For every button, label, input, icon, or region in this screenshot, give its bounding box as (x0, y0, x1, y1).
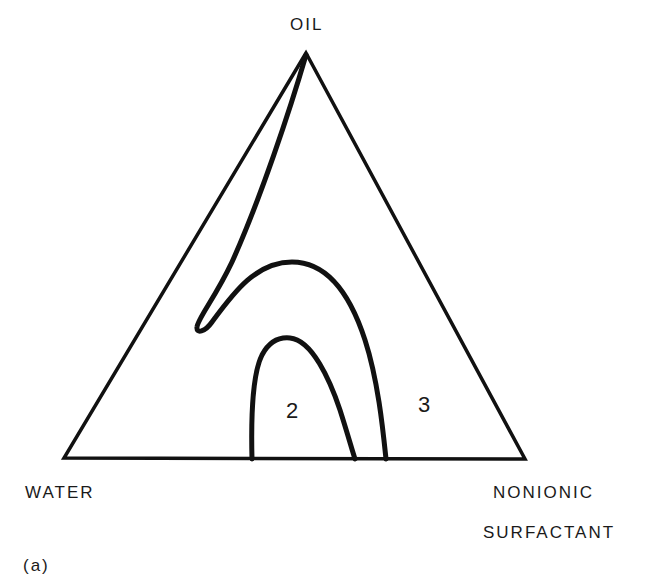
inner-phase-boundary (252, 338, 355, 459)
vertex-label-oil: OIL (290, 15, 323, 35)
vertex-label-nonionic: NONIONIC (493, 483, 594, 503)
vertex-label-surfactant: SURFACTANT (483, 523, 615, 543)
region-label-3: 3 (418, 392, 430, 418)
panel-label: (a) (23, 556, 50, 576)
vertex-label-water: WATER (25, 483, 95, 503)
region-label-2: 2 (286, 398, 298, 424)
